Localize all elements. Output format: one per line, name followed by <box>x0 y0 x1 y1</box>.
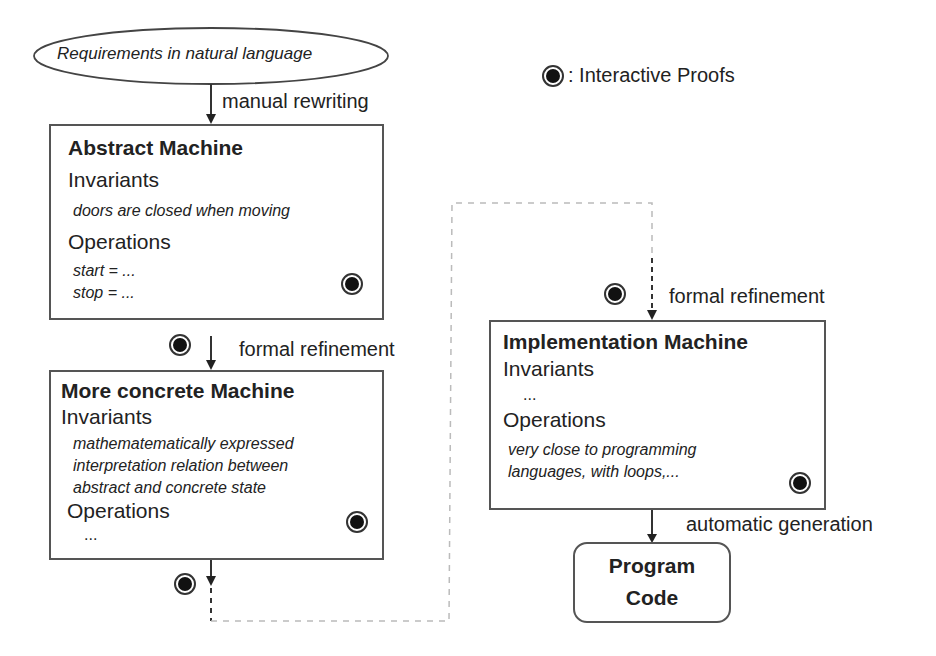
arrowhead <box>206 114 216 124</box>
interactive-proof-icon <box>346 511 368 533</box>
implementation-machine-box: Implementation Machine Invariants ... Op… <box>489 320 826 510</box>
abstract-machine-box: Abstract Machine Invariants doors are cl… <box>49 124 384 320</box>
program-code-line2: Code <box>575 582 729 614</box>
abstract-operations-label: Operations <box>68 230 171 254</box>
interactive-proof-icon <box>542 65 564 87</box>
abstract-invariant-0: doors are closed when moving <box>73 200 290 222</box>
interactive-proof-icon <box>604 283 626 305</box>
implementation-invariant-0: ... <box>523 384 536 406</box>
concrete-operations-label: Operations <box>67 499 170 523</box>
requirements-label: Requirements in natural language <box>57 44 312 64</box>
legend-label: : Interactive Proofs <box>568 64 735 87</box>
concrete-operation-0: ... <box>84 524 97 546</box>
interactive-proof-icon <box>174 573 196 595</box>
implementation-machine-title: Implementation Machine <box>503 330 748 354</box>
implementation-invariants-label: Invariants <box>503 357 594 381</box>
concrete-invariant-0: mathematematically expressed <box>73 433 294 455</box>
concrete-machine-title: More concrete Machine <box>61 379 294 403</box>
concrete-invariants-label: Invariants <box>61 405 152 429</box>
interactive-proof-icon <box>169 334 191 356</box>
formal-refinement-label-2: formal refinement <box>669 285 825 308</box>
implementation-operation-0: very close to programming <box>508 439 697 461</box>
interactive-proof-icon <box>341 273 363 295</box>
concrete-invariant-2: abstract and concrete state <box>73 477 266 499</box>
manual-rewriting-label: manual rewriting <box>222 90 369 113</box>
implementation-operation-1: languages, with loops,... <box>508 461 680 483</box>
formal-refinement-label-1: formal refinement <box>239 338 395 361</box>
program-code-box: Program Code <box>573 542 731 623</box>
implementation-operations-label: Operations <box>503 408 606 432</box>
program-code-line1: Program <box>575 550 729 582</box>
abstract-invariants-label: Invariants <box>68 168 159 192</box>
abstract-machine-title: Abstract Machine <box>68 136 243 160</box>
concrete-machine-box: More concrete Machine Invariants mathema… <box>49 370 384 560</box>
concrete-invariant-1: interpretation relation between <box>73 455 288 477</box>
abstract-operation-1: stop = ... <box>73 282 135 304</box>
abstract-operation-0: start = ... <box>73 260 136 282</box>
interactive-proof-icon <box>789 472 811 494</box>
automatic-generation-label: automatic generation <box>686 513 873 536</box>
